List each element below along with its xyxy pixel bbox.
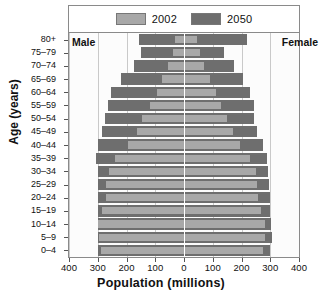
x-tick-mark <box>299 258 300 262</box>
x-tick-mark <box>69 258 70 262</box>
legend-item-2050: 2050 <box>191 13 252 25</box>
x-axis-title: Population (millions) <box>0 276 322 290</box>
bar-2002-female <box>184 128 233 135</box>
legend-label-2050: 2050 <box>227 13 252 25</box>
y-tick-label: 65–69 <box>31 75 56 84</box>
bar-2002-male <box>168 62 184 69</box>
legend-label-2002: 2002 <box>152 13 177 25</box>
y-tick-mark <box>64 158 68 159</box>
x-tick-label: 400 <box>61 262 77 273</box>
y-tick-mark <box>64 66 68 67</box>
bar-2002-male <box>102 207 184 214</box>
bar-2002-male <box>106 181 184 188</box>
x-tick-label: 0 <box>181 262 186 273</box>
x-tick-label: 200 <box>234 262 250 273</box>
population-pyramid-chart: 2002 2050 Male Female 80+75–7970–7465–69… <box>0 0 322 302</box>
bar-2002-male <box>173 49 185 56</box>
y-tick-label: 75–79 <box>31 48 56 57</box>
x-tick-mark <box>98 258 99 262</box>
y-tick-mark <box>64 198 68 199</box>
x-tick-label: 400 <box>291 262 307 273</box>
bar-2002-female <box>184 102 221 109</box>
y-tick-mark <box>64 211 68 212</box>
y-tick-label: 25–29 <box>31 180 56 189</box>
y-tick-mark <box>64 79 68 80</box>
y-tick-mark <box>64 105 68 106</box>
bar-2002-male <box>98 220 184 227</box>
y-tick-label: 70–74 <box>31 61 56 70</box>
x-tick-mark <box>242 258 243 262</box>
y-tick-label: 60–64 <box>31 88 56 97</box>
bar-2002-female <box>184 141 240 148</box>
bar-2002-female <box>184 75 210 82</box>
legend-item-2002: 2002 <box>116 13 177 25</box>
y-tick-mark <box>64 224 68 225</box>
center-axis-line <box>184 33 185 257</box>
bar-2002-female <box>184 194 258 201</box>
y-tick-mark <box>64 185 68 186</box>
y-tick-mark <box>64 171 68 172</box>
bar-2002-male <box>99 234 184 241</box>
bar-2002-male <box>142 115 184 122</box>
x-tick-label: 300 <box>262 262 278 273</box>
bar-2002-female <box>184 234 265 241</box>
x-tick-label: 200 <box>119 262 135 273</box>
x-axis-tick-labels: 4003002001000100200300400 <box>0 260 322 274</box>
x-tick-mark <box>270 258 271 262</box>
male-side-label: Male <box>72 36 95 48</box>
bar-2002-male <box>101 247 184 254</box>
y-tick-label: 80+ <box>41 35 56 44</box>
plot-area <box>69 33 299 257</box>
x-tick-label: 100 <box>205 262 221 273</box>
y-tick-mark <box>64 119 68 120</box>
y-tick-label: 0–4 <box>41 246 56 255</box>
legend-swatch-2002 <box>116 13 146 25</box>
x-tick-mark <box>184 258 185 262</box>
y-tick-mark <box>64 132 68 133</box>
y-tick-mark <box>64 40 68 41</box>
bar-2002-female <box>184 115 227 122</box>
bar-2002-female <box>184 220 265 227</box>
y-tick-mark <box>64 250 68 251</box>
y-tick-mark <box>64 237 68 238</box>
bar-2002-female <box>184 207 261 214</box>
bar-2002-female <box>184 247 263 254</box>
bar-2002-female <box>184 155 250 162</box>
female-side-label: Female <box>282 36 318 48</box>
y-tick-label: 5–9 <box>41 233 56 242</box>
bar-2002-male <box>137 128 184 135</box>
y-tick-label: 50–54 <box>31 114 56 123</box>
y-tick-label: 15–19 <box>31 206 56 215</box>
x-tick-label: 300 <box>90 262 106 273</box>
bar-2002-male <box>162 75 184 82</box>
x-tick-label: 100 <box>147 262 163 273</box>
y-tick-label: 10–14 <box>31 220 56 229</box>
legend-swatch-2050 <box>191 13 221 25</box>
bar-2002-male <box>115 155 184 162</box>
y-tick-label: 45–49 <box>31 127 56 136</box>
bar-2002-female <box>184 49 200 56</box>
bar-2002-female <box>184 36 197 43</box>
bar-2002-female <box>184 168 256 175</box>
chart-legend: 2002 2050 <box>69 6 299 33</box>
bar-2002-female <box>184 89 216 96</box>
bar-2002-female <box>184 181 257 188</box>
y-axis-title: Age (years) <box>7 72 21 152</box>
y-tick-label: 20–24 <box>31 193 56 202</box>
y-tick-label: 55–59 <box>31 101 56 110</box>
x-tick-mark <box>213 258 214 262</box>
bar-2002-male <box>157 89 184 96</box>
y-tick-mark <box>64 145 68 146</box>
y-tick-label: 35–39 <box>31 154 56 163</box>
y-tick-mark <box>64 92 68 93</box>
y-tick-label: 30–34 <box>31 167 56 176</box>
bar-2002-female <box>184 62 204 69</box>
bar-2002-male <box>109 168 184 175</box>
x-tick-mark <box>127 258 128 262</box>
x-tick-mark <box>155 258 156 262</box>
bar-2002-male <box>150 102 185 109</box>
bar-2002-male <box>128 141 184 148</box>
y-tick-mark <box>64 53 68 54</box>
bar-2002-male <box>106 194 184 201</box>
y-tick-label: 40–44 <box>31 141 56 150</box>
